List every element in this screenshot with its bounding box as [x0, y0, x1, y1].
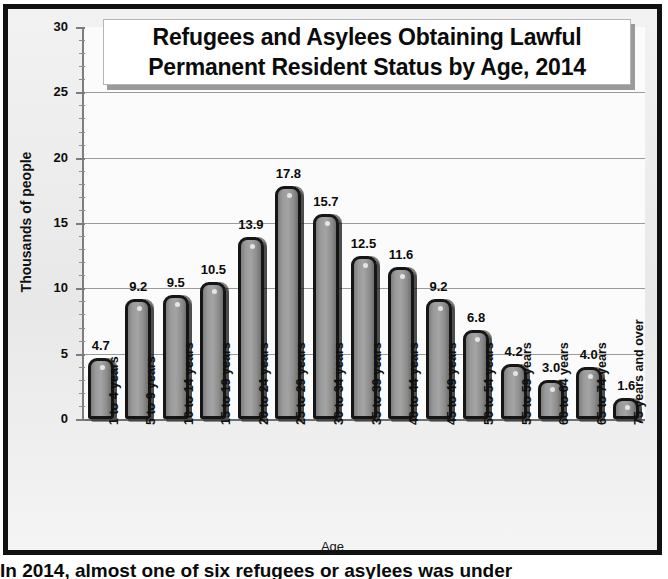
x-category-label: 1 to 4 years — [107, 356, 121, 425]
x-category-label: 5 to 9 years — [144, 356, 158, 425]
y-tick-minor — [79, 184, 85, 185]
bar-value-label: 13.9 — [221, 217, 281, 232]
bar-highlight — [400, 274, 405, 279]
y-tick-minor — [79, 79, 85, 80]
y-axis-title-wrap: Thousands of people — [16, 129, 36, 319]
bar-highlight — [513, 371, 518, 376]
bar-highlight — [212, 289, 217, 294]
bar-value-label: 15.7 — [296, 194, 356, 209]
x-category-label: 35 to 39 years — [370, 342, 384, 425]
gridline — [82, 223, 645, 224]
y-tick-major — [76, 223, 85, 225]
bar-highlight — [550, 387, 555, 392]
y-tick-minor — [79, 301, 85, 302]
y-tick-minor — [79, 393, 85, 394]
y-tick-minor — [79, 66, 85, 67]
x-category-label: 65 to 74 years — [595, 342, 609, 425]
x-category-label: 75 years and over — [632, 319, 646, 425]
x-category-label: 60 to 64 years — [557, 342, 571, 425]
y-tick-minor — [79, 367, 85, 368]
bar-highlight — [100, 365, 105, 370]
y-tick-minor — [79, 145, 85, 146]
y-tick-minor — [79, 328, 85, 329]
bar-value-label: 6.8 — [446, 310, 506, 325]
y-tick-label: 0 — [40, 411, 68, 426]
bar-value-label: 17.8 — [258, 166, 318, 181]
figure-caption: In 2014, almost one of six refugees or a… — [0, 561, 668, 579]
bar-highlight — [325, 221, 330, 226]
bar-highlight — [137, 306, 142, 311]
chart-frame: 051015202530 Thousands of people 4.79.29… — [3, 4, 662, 555]
y-tick-minor — [79, 406, 85, 407]
chart-title-line-1: Refugees and Asylees Obtaining Lawful — [153, 22, 582, 52]
y-tick-minor — [79, 314, 85, 315]
bar-highlight — [175, 302, 180, 307]
x-category-label: 15 to 19 years — [219, 342, 233, 425]
figure-caption-text: In 2014, almost one of six refugees or a… — [0, 561, 668, 579]
y-tick-minor — [79, 275, 85, 276]
gridline — [82, 158, 645, 159]
y-tick-minor — [79, 210, 85, 211]
chart-screenshot: 051015202530 Thousands of people 4.79.29… — [0, 0, 668, 579]
bar-value-label: 9.5 — [146, 275, 206, 290]
y-tick-major — [76, 27, 85, 29]
y-tick-minor — [79, 171, 85, 172]
bar-value-label: 9.2 — [409, 279, 469, 294]
y-tick-minor — [79, 105, 85, 106]
x-axis-title: Age — [8, 539, 657, 554]
bar-value-label: 10.5 — [183, 262, 243, 277]
x-category-label: 30 to 34 years — [332, 342, 346, 425]
y-tick-major — [76, 158, 85, 160]
y-tick-label: 10 — [40, 280, 68, 295]
bar-highlight — [438, 306, 443, 311]
x-category-label: 40 to 44 years — [407, 342, 421, 425]
y-tick-minor — [79, 118, 85, 119]
y-tick-minor — [79, 40, 85, 41]
y-tick-major — [76, 288, 85, 290]
x-category-label: 45 to 49 years — [445, 342, 459, 425]
bar-value-label: 11.6 — [371, 247, 431, 262]
y-tick-minor — [79, 197, 85, 198]
y-tick-minor — [79, 262, 85, 263]
x-category-label: 50 to 54 years — [482, 342, 496, 425]
x-category-label: 55 to 59 years — [520, 342, 534, 425]
x-category-label: 25 to 29 years — [294, 342, 308, 425]
chart-title-box: Refugees and Asylees Obtaining Lawful Pe… — [103, 19, 631, 85]
y-tick-label: 30 — [40, 19, 68, 34]
y-tick-major — [76, 354, 85, 356]
x-category-label: 10 to 14 years — [182, 342, 196, 425]
y-tick-label: 15 — [40, 215, 68, 230]
bar-value-label: 4.7 — [71, 338, 131, 353]
y-tick-minor — [79, 132, 85, 133]
y-tick-major — [76, 419, 85, 421]
bar-highlight — [250, 244, 255, 249]
bar-highlight — [475, 337, 480, 342]
y-tick-minor — [79, 249, 85, 250]
y-tick-label: 25 — [40, 84, 68, 99]
y-tick-minor — [79, 380, 85, 381]
gridline — [82, 92, 645, 93]
y-tick-minor — [79, 53, 85, 54]
y-tick-label: 5 — [40, 346, 68, 361]
bar-highlight — [287, 193, 292, 198]
bar-highlight — [588, 374, 593, 379]
y-tick-minor — [79, 236, 85, 237]
y-tick-label: 20 — [40, 150, 68, 165]
bar-highlight — [363, 263, 368, 268]
chart-title-line-2: Permanent Resident Status by Age, 2014 — [148, 52, 586, 82]
x-category-label: 20 to 24 years — [257, 342, 271, 425]
y-axis-title: Thousands of people — [18, 127, 34, 317]
y-tick-major — [76, 92, 85, 94]
bar-highlight — [625, 405, 630, 410]
